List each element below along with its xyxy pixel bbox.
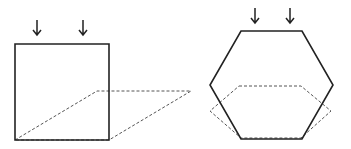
hexagon-dashed-projection <box>210 86 331 138</box>
down-arrow-icon <box>286 8 294 23</box>
square-force-arrows <box>33 20 87 35</box>
hexagon-force-arrows <box>251 8 294 23</box>
hexagon-figure <box>210 8 333 139</box>
square-dashed-projection <box>15 91 191 140</box>
down-arrow-icon <box>79 20 87 35</box>
down-arrow-icon <box>33 20 41 35</box>
square-outline <box>15 44 109 140</box>
square-figure <box>15 20 191 140</box>
down-arrow-icon <box>251 8 259 23</box>
hexagon-outline <box>210 31 333 139</box>
diagram-canvas <box>0 0 351 149</box>
